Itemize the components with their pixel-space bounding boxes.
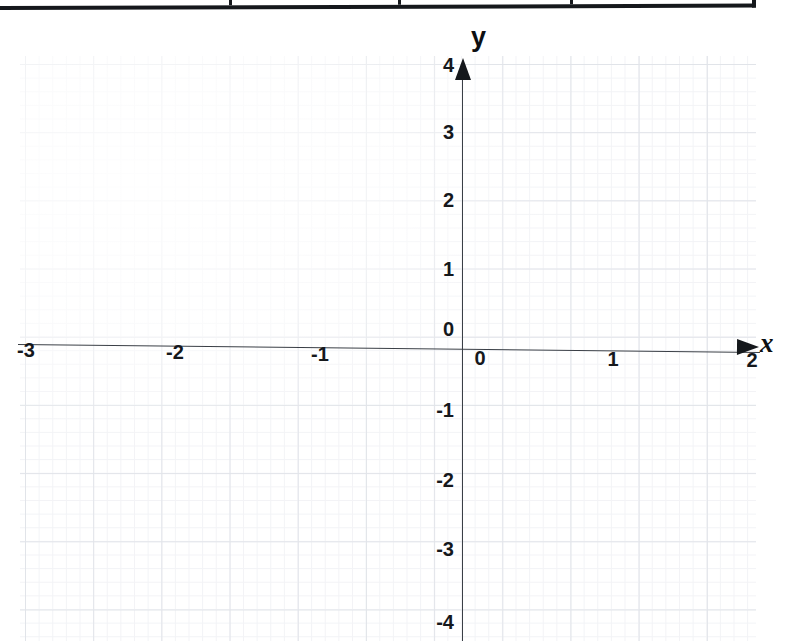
x-tick-label-1: 1: [601, 349, 625, 369]
y-tick-label--3: -3: [404, 539, 454, 559]
x-tick-label--1: -1: [302, 344, 338, 364]
y-tick-label--2: -2: [404, 470, 454, 490]
y-tick-label-4: 4: [414, 55, 454, 75]
x-tick-label-2: 2: [740, 350, 764, 370]
y-tick-label--1: -1: [404, 400, 454, 420]
graph-page: y x -3 -2 -1 0 1 2 4 3 2 1 0 -1 -2 -3 -4: [0, 0, 793, 641]
y-tick-label--4: -4: [404, 612, 454, 632]
x-tick-label--2: -2: [157, 342, 193, 362]
y-axis-arrowhead-icon: [455, 58, 471, 80]
y-tick-label-3: 3: [414, 122, 454, 142]
y-tick-label-1: 1: [414, 259, 454, 279]
coordinate-plane: y x -3 -2 -1 0 1 2 4 3 2 1 0 -1 -2 -3 -4: [0, 0, 793, 641]
y-tick-label-2: 2: [414, 190, 454, 210]
x-tick-label--3: -3: [8, 340, 44, 360]
x-tick-label-0: 0: [468, 348, 492, 368]
y-axis-line: [462, 62, 463, 641]
y-tick-label-0: 0: [414, 319, 454, 339]
y-axis-label: y: [471, 24, 486, 51]
